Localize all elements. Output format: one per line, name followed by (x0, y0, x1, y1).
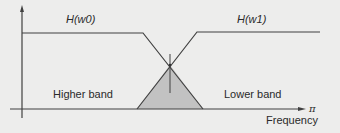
y-axis-arrow-icon (20, 5, 24, 12)
x-axis-label: Frequency (266, 115, 318, 126)
x-axis-pi-tick: π (309, 104, 316, 114)
crossover-point (169, 64, 172, 67)
lower-band-label: Lower band (224, 89, 282, 100)
h-w1-label: H(w1) (237, 14, 266, 25)
h-w0-label: H(w0) (66, 14, 95, 25)
filter-bank-diagram: H(w0) H(w1) Higher band Lower band π Fre… (0, 0, 340, 133)
x-axis-arrow-icon (298, 107, 306, 111)
higher-band-label: Higher band (53, 89, 113, 100)
